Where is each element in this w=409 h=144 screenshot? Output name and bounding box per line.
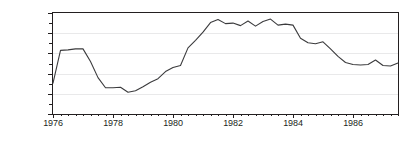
- x-tick-label: 1984: [283, 118, 303, 128]
- data-line-layer: [53, 13, 398, 114]
- x-tick-label: 1976: [43, 118, 63, 128]
- x-tick-label: 1980: [163, 118, 183, 128]
- plot-area: [52, 12, 399, 115]
- x-tick-label: 1986: [343, 118, 363, 128]
- data-line-series-1: [53, 19, 398, 92]
- x-tick-label: 1978: [103, 118, 123, 128]
- x-tick-label: 1982: [223, 118, 243, 128]
- chart-container: 26,000 24,000 22,000 20,000 18,000 16,00…: [0, 0, 409, 144]
